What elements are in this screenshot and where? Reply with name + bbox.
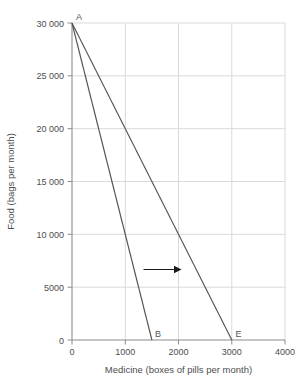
y-tick-label-15000: 15 000 bbox=[36, 177, 64, 187]
y-tick-label-25000: 25 000 bbox=[36, 71, 64, 81]
ppf-chart-figure: 30 000 25 000 20 000 15 000 10 000 5000 … bbox=[0, 0, 308, 392]
point-label-b: B bbox=[155, 329, 161, 339]
x-tick-label-4000: 4000 bbox=[275, 347, 295, 357]
x-tick-label-2000: 2000 bbox=[168, 347, 188, 357]
y-tick-label-30000: 30 000 bbox=[36, 19, 64, 29]
x-tick-label-3000: 3000 bbox=[222, 347, 242, 357]
chart-background bbox=[0, 0, 308, 392]
y-tick-label-20000: 20 000 bbox=[36, 124, 64, 134]
x-axis-title: Medicine (boxes of pills per month) bbox=[105, 364, 252, 375]
y-axis-title: Food (bags per month) bbox=[5, 133, 16, 230]
point-label-e: E bbox=[236, 329, 242, 339]
x-tick-label-0: 0 bbox=[69, 347, 74, 357]
chart-svg: 30 000 25 000 20 000 15 000 10 000 5000 … bbox=[0, 0, 308, 392]
y-tick-label-5000: 5000 bbox=[44, 283, 64, 293]
point-label-a: A bbox=[76, 12, 82, 22]
x-tick-label-1000: 1000 bbox=[115, 347, 135, 357]
y-tick-label-0: 0 bbox=[59, 336, 64, 346]
y-tick-label-10000: 10 000 bbox=[36, 230, 64, 240]
